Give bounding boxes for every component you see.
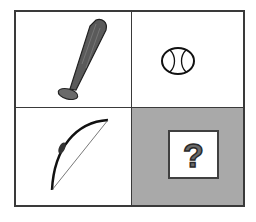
cell-unknown[interactable]: ? (132, 108, 243, 205)
bow-icon (16, 108, 132, 205)
question-mark-icon: ? (183, 138, 204, 172)
cell-baseball (132, 12, 243, 108)
baseball-icon (132, 12, 243, 108)
cell-bow (16, 108, 132, 205)
analogy-grid: ? (14, 10, 245, 207)
question-box[interactable]: ? (168, 130, 219, 179)
cell-baseball-bat (16, 12, 132, 108)
baseball-bat-icon (16, 12, 132, 108)
